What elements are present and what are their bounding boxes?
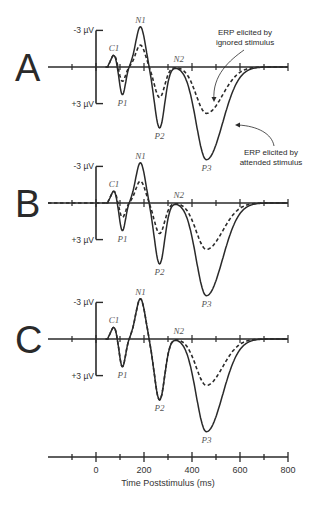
component-label-c1: C1 (109, 179, 120, 189)
annotation-ignored: ERP elicited by ignored stimulus (212, 28, 275, 102)
scale-label-bottom: +3 µV (71, 371, 94, 381)
component-label-c1: C1 (109, 43, 120, 53)
annotation-ignored-line1: ERP elicited by (218, 28, 272, 37)
annotation-attended: ERP elicited by attended stimulus (235, 123, 302, 168)
erp-panels: A-3 µV+3 µVC1P1N1P2N2P3B-3 µV+3 µVC1P1N1… (15, 15, 288, 445)
scale-label-top: -3 µV (74, 161, 95, 171)
time-axis-title: Time Poststimulus (ms) (121, 478, 215, 488)
time-tick-label: 200 (136, 465, 151, 475)
waveform-attended (106, 299, 288, 432)
scale-label-bottom: +3 µV (71, 99, 94, 109)
panel-label: B (15, 183, 40, 225)
annotation-ignored-line2: ignored stimulus (216, 38, 274, 47)
component-label-p2: P2 (154, 403, 165, 413)
component-label-p2: P2 (154, 267, 165, 277)
scale-label-top: -3 µV (74, 25, 95, 35)
component-label-n2: N2 (173, 326, 185, 336)
component-label-n2: N2 (173, 54, 185, 64)
erp-attention-figure: A-3 µV+3 µVC1P1N1P2N2P3B-3 µV+3 µVC1P1N1… (0, 0, 322, 505)
arrowhead-attended-icon (235, 123, 240, 128)
component-label-n2: N2 (173, 190, 185, 200)
component-label-p1: P1 (116, 370, 127, 380)
annotation-attended-line2: attended stimulus (240, 158, 303, 167)
component-label-p1: P1 (116, 98, 127, 108)
component-label-n1: N1 (134, 287, 146, 297)
component-label-p1: P1 (116, 234, 127, 244)
time-axis: 0200400600800 (48, 452, 296, 475)
waveform-ignored (106, 299, 288, 400)
time-tick-label: 400 (184, 465, 199, 475)
panel-label: A (15, 47, 41, 89)
arrow-ignored (214, 50, 244, 100)
component-label-p3: P3 (200, 163, 211, 173)
panel-c: C-3 µV+3 µVC1P1N1P2N2P3 (15, 287, 288, 445)
arrowhead-ignored-icon (212, 97, 217, 102)
arrow-attended (238, 125, 274, 146)
panel-label: C (15, 319, 42, 361)
component-label-c1: C1 (109, 315, 120, 325)
time-tick-label: 600 (232, 465, 247, 475)
waveform-attended (106, 163, 288, 296)
annotation-attended-line1: ERP elicited by (244, 148, 298, 157)
panel-b: B-3 µV+3 µVC1P1N1P2N2P3 (15, 151, 288, 309)
scale-label-bottom: +3 µV (71, 235, 94, 245)
component-label-p3: P3 (200, 299, 211, 309)
component-label-p3: P3 (200, 435, 211, 445)
component-label-n1: N1 (134, 15, 146, 25)
scale-label-top: -3 µV (74, 297, 95, 307)
time-tick-label: 800 (280, 465, 295, 475)
component-label-n1: N1 (134, 151, 146, 161)
time-tick-label: 0 (93, 465, 98, 475)
component-label-p2: P2 (154, 131, 165, 141)
